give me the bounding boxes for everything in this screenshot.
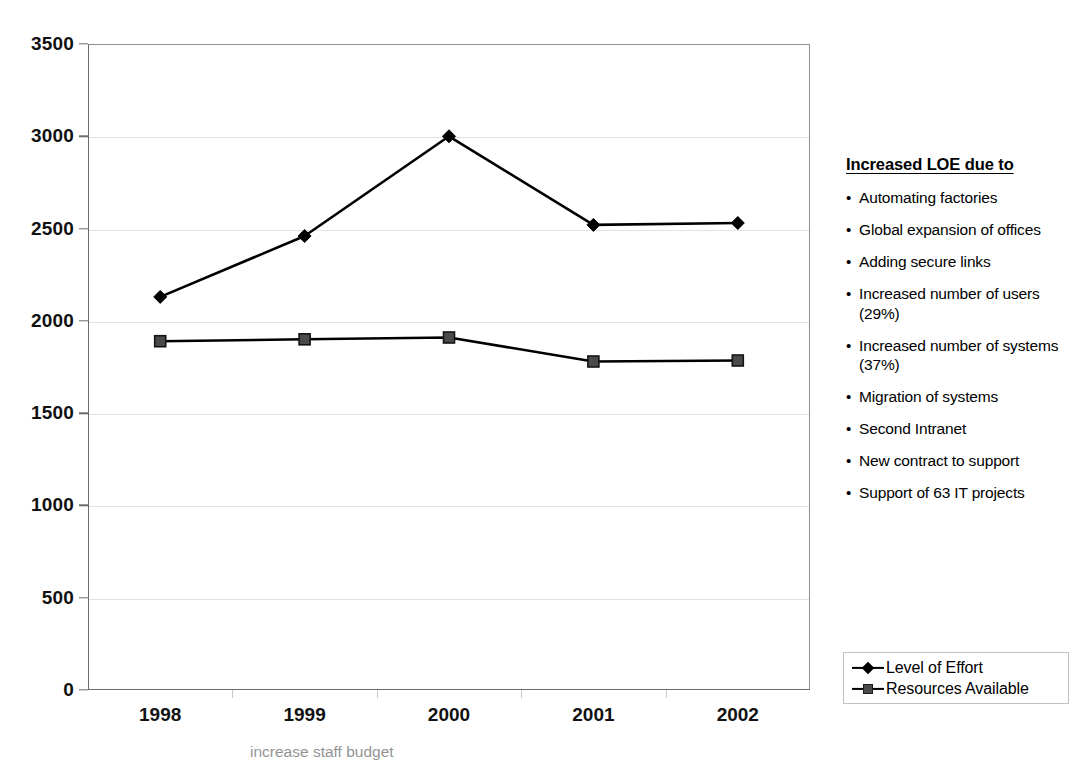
- x-axis-tick-label: 2001: [572, 704, 614, 726]
- x-axis-tick-label: 2002: [717, 704, 759, 726]
- list-item-label: Second Intranet: [859, 420, 966, 437]
- clipped-footer-text: increase staff budget: [0, 746, 1077, 760]
- y-axis-tick-mark: [79, 136, 88, 137]
- data-point-diamond: [587, 218, 600, 231]
- x-axis-tick-label: 1998: [139, 704, 181, 726]
- line-chart: 0500100015002000250030003500 19981999200…: [0, 0, 830, 760]
- y-axis: 0500100015002000250030003500: [0, 0, 88, 760]
- y-axis-tick-mark: [79, 505, 88, 506]
- bullet-icon: •: [846, 387, 851, 407]
- list-item-label: New contract to support: [859, 452, 1019, 469]
- reason-list: •Automating factories•Global expansion o…: [846, 188, 1068, 503]
- legend-label-resources-available: Resources Available: [886, 680, 1029, 698]
- y-axis-tick-label: 3000: [4, 125, 74, 147]
- y-axis-tick-mark: [79, 597, 88, 598]
- list-item-label: Global expansion of offices: [859, 221, 1041, 238]
- bullet-icon: •: [846, 419, 851, 439]
- y-axis-tick-label: 500: [4, 587, 74, 609]
- y-axis-tick-mark: [79, 320, 88, 321]
- y-axis-tick-mark: [79, 43, 88, 44]
- y-axis-tick-mark: [79, 689, 88, 690]
- data-series-layer: [88, 44, 810, 690]
- data-point-square: [444, 332, 455, 343]
- bullet-icon: •: [846, 220, 851, 240]
- series-line-level-of-effort: [160, 136, 738, 297]
- panel-title: Increased LOE due to: [846, 155, 1068, 174]
- y-axis-tick-label: 1000: [4, 494, 74, 516]
- y-axis-tick-mark: [79, 412, 88, 413]
- x-axis-tick-mark: [232, 690, 233, 698]
- data-point-diamond: [731, 217, 744, 230]
- list-item: •Adding secure links: [846, 252, 1068, 272]
- data-point-square: [299, 334, 310, 345]
- data-point-square: [732, 355, 743, 366]
- list-item-label: Automating factories: [859, 189, 997, 206]
- list-item: •Increased number of systems (37%): [846, 336, 1068, 375]
- x-axis-tick-mark: [666, 690, 667, 698]
- list-item: •Support of 63 IT projects: [846, 483, 1068, 503]
- y-axis-tick-label: 3500: [4, 33, 74, 55]
- diamond-marker-icon: [850, 658, 886, 678]
- x-axis-tick-mark: [521, 690, 522, 698]
- increased-loe-panel: Increased LOE due to •Automating factori…: [846, 155, 1068, 515]
- bullet-icon: •: [846, 284, 851, 304]
- list-item: •New contract to support: [846, 451, 1068, 471]
- list-item: •Migration of systems: [846, 387, 1068, 407]
- chart-legend: Level of Effort Resources Available: [843, 652, 1069, 704]
- x-axis-tick-mark: [377, 690, 378, 698]
- list-item: •Global expansion of offices: [846, 220, 1068, 240]
- square-marker-icon: [850, 679, 886, 699]
- data-point-square: [155, 336, 166, 347]
- y-axis-tick-label: 1500: [4, 402, 74, 424]
- clipped-footer-label: increase staff budget: [0, 746, 1077, 760]
- list-item-label: Increased number of systems (37%): [859, 337, 1058, 374]
- bullet-icon: •: [846, 188, 851, 208]
- list-item: •Second Intranet: [846, 419, 1068, 439]
- bullet-icon: •: [846, 252, 851, 272]
- y-axis-tick-label: 2500: [4, 218, 74, 240]
- list-item-label: Migration of systems: [859, 388, 998, 405]
- y-axis-tick-label: 0: [4, 679, 74, 701]
- data-point-square: [588, 356, 599, 367]
- legend-item-resources-available: Resources Available: [850, 678, 1062, 699]
- bullet-icon: •: [846, 483, 851, 503]
- list-item-label: Adding secure links: [859, 253, 991, 270]
- bullet-icon: •: [846, 451, 851, 471]
- legend-item-level-of-effort: Level of Effort: [850, 657, 1062, 678]
- x-axis-tick-label: 2000: [428, 704, 470, 726]
- chart-page: 0500100015002000250030003500 19981999200…: [0, 0, 1077, 760]
- y-axis-tick-label: 2000: [4, 310, 74, 332]
- bullet-icon: •: [846, 336, 851, 356]
- list-item: •Automating factories: [846, 188, 1068, 208]
- y-axis-tick-mark: [79, 228, 88, 229]
- x-axis-tick-label: 1999: [283, 704, 325, 726]
- list-item-label: Support of 63 IT projects: [859, 484, 1025, 501]
- list-item: •Increased number of users (29%): [846, 284, 1068, 323]
- list-item-label: Increased number of users (29%): [859, 285, 1040, 322]
- data-point-diamond: [154, 290, 167, 303]
- legend-label-level-of-effort: Level of Effort: [886, 659, 983, 677]
